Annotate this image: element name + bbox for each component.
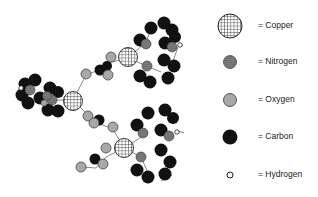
upper-right-cluster: [134, 17, 183, 89]
middle-chain: [83, 111, 118, 153]
left-cluster: [16, 74, 65, 118]
legend-carbon-label: = Carbon: [258, 131, 293, 141]
upper-chain: [81, 52, 116, 80]
lower-chain: [76, 154, 108, 173]
legend-oxygen-label: = Oxygen: [258, 94, 295, 104]
legend-oxygen-icon: [224, 94, 237, 107]
legend-carbon-icon: [223, 130, 238, 145]
legend-copper-label: = Copper: [258, 20, 293, 30]
legend-copper-icon: [218, 14, 242, 38]
legend-hydrogen-icon: [227, 172, 233, 178]
legend-nitrogen-label: = Nitrogen: [258, 56, 297, 66]
copper-atom: [64, 92, 83, 111]
legend-nitrogen-icon: [224, 56, 237, 69]
lower-right-cluster: [131, 104, 180, 184]
legend-hydrogen-label: = Hydrogen: [258, 169, 302, 179]
copper-atom: [115, 139, 134, 158]
legend-symbols: [218, 14, 242, 178]
copper-atom: [119, 48, 138, 67]
